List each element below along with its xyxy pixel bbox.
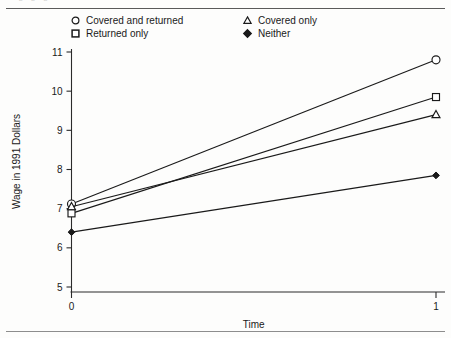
y-tick-label-11: 11 <box>52 47 63 58</box>
series-line-covered-only <box>72 115 437 207</box>
figure-panel: a g g g Covered and returned Covered onl <box>0 0 451 338</box>
plot-axes: 56789101101 <box>51 47 445 312</box>
y-tick-label-7: 7 <box>57 203 63 214</box>
y-tick-label-6: 6 <box>57 242 63 253</box>
x-axis-title: Time <box>243 319 265 330</box>
y-tick-label-10: 10 <box>51 86 63 97</box>
line-chart-plot: 56789101101 TimeWage in 1991 Dollars <box>0 0 451 338</box>
y-tick-label-9: 9 <box>57 125 63 136</box>
y-tick-label-8: 8 <box>57 164 63 175</box>
series-line-returned-only <box>72 97 437 213</box>
plot-series-group <box>68 56 441 236</box>
datapoint-covered-and-returned-1 <box>432 56 440 64</box>
datapoint-covered-only-1 <box>432 110 440 117</box>
x-tick-label-1: 1 <box>433 301 439 312</box>
series-line-covered-and-returned <box>72 60 437 204</box>
y-tick-label-5: 5 <box>57 282 63 293</box>
datapoint-neither-0 <box>68 229 75 236</box>
x-tick-label-0: 0 <box>69 301 75 312</box>
datapoint-returned-only-0 <box>68 210 75 217</box>
series-line-neither <box>72 175 437 232</box>
datapoint-returned-only-1 <box>433 94 440 101</box>
datapoint-neither-1 <box>433 172 440 179</box>
y-axis-title: Wage in 1991 Dollars <box>11 114 22 209</box>
